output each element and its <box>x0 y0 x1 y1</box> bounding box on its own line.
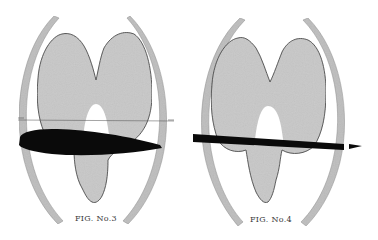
plate-tip <box>349 144 362 149</box>
caption-fig3: FIG. No.3 <box>75 214 117 223</box>
figure-4: FIG. No.4 <box>193 18 362 226</box>
figure-3: FIG. No.3 <box>18 16 174 224</box>
caption-fig4: FIG. No.4 <box>250 215 292 224</box>
figure-plate: FIG. No.3 FIG. No.4 <box>0 0 378 240</box>
